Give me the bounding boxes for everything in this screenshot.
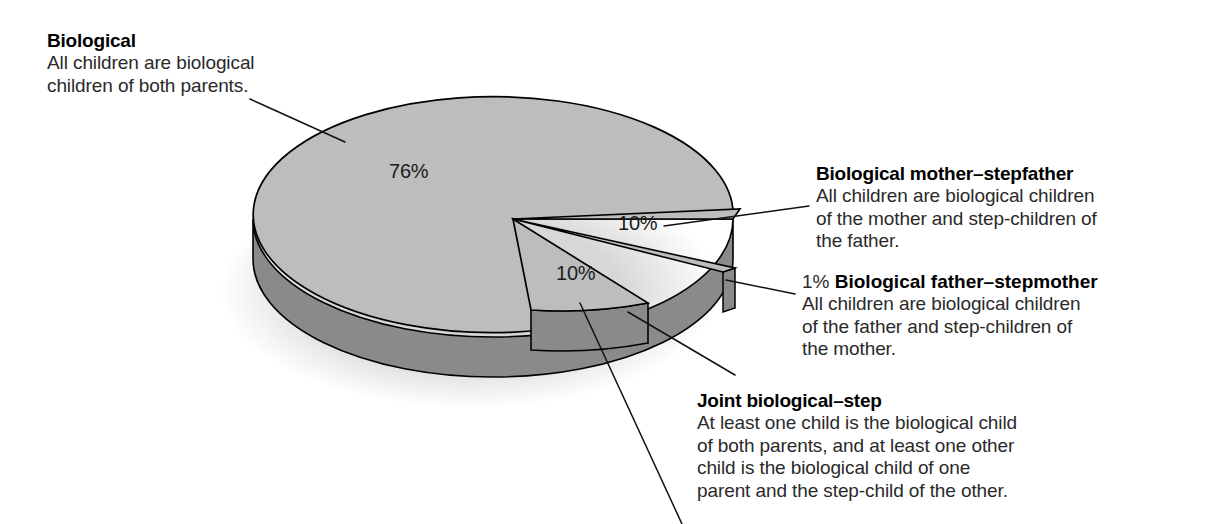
- pie-label-biological-pct: 76%: [389, 160, 428, 183]
- callout-biological-title: Biological: [47, 29, 254, 52]
- callout-mother-stepfather-line-1: All children are biological children: [816, 185, 1097, 208]
- callout-mother-stepfather-title: Biological mother–stepfather: [816, 162, 1097, 185]
- callout-joint-line-2: of both parents, and at least one other: [697, 435, 1017, 458]
- pie-chart-figure: 76% 10% 10% Biological All children are …: [0, 0, 1217, 524]
- callout-father-stepmother-line-2: of the father and step-children of: [802, 316, 1098, 339]
- callout-father-stepmother-line-1: All children are biological children: [802, 293, 1098, 316]
- callout-father-stepmother-pct: 1%: [802, 271, 829, 292]
- callout-joint: Joint biological–step At least one child…: [697, 389, 1017, 502]
- callout-mother-stepfather-line-3: the father.: [816, 230, 1097, 253]
- callout-father-stepmother-title-row: 1% Biological father–stepmother: [802, 270, 1098, 293]
- callout-father-stepmother: 1% Biological father–stepmother All chil…: [802, 270, 1098, 361]
- pie-label-joint-pct: 10%: [556, 262, 595, 285]
- callout-father-stepmother-title: Biological father–stepmother: [835, 271, 1098, 292]
- callout-mother-stepfather-line-2: of the mother and step-children of: [816, 208, 1097, 231]
- callout-father-stepmother-body: All children are biological children of …: [802, 293, 1098, 361]
- callout-biological-line-2: children of both parents.: [47, 75, 254, 98]
- callout-joint-body: At least one child is the biological chi…: [697, 412, 1017, 502]
- callout-joint-line-4: parent and the step-child of the other.: [697, 480, 1017, 503]
- callout-mother-stepfather-body: All children are biological children of …: [816, 185, 1097, 253]
- slice-father-stepmother-side: [723, 268, 735, 312]
- callout-joint-line-3: child is the biological child of one: [697, 457, 1017, 480]
- callout-biological-body: All children are biological children of …: [47, 52, 254, 97]
- leader-line-biological: [250, 99, 345, 142]
- callout-father-stepmother-line-3: the mother.: [802, 338, 1098, 361]
- callout-mother-stepfather: Biological mother–stepfather All childre…: [816, 162, 1097, 253]
- pie-label-mother-stepfather-pct: 10%: [618, 212, 657, 235]
- leader-line-father-stepmother: [726, 280, 795, 294]
- callout-biological: Biological All children are biological c…: [47, 29, 254, 97]
- callout-biological-line-1: All children are biological: [47, 52, 254, 75]
- callout-joint-line-1: At least one child is the biological chi…: [697, 412, 1017, 435]
- callout-joint-title: Joint biological–step: [697, 389, 1017, 412]
